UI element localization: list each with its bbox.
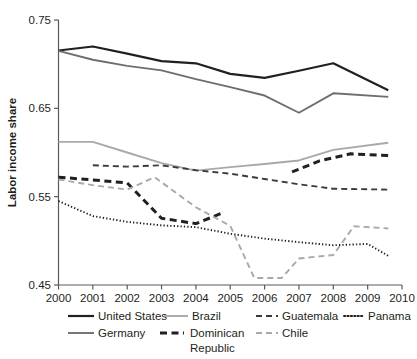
series-line bbox=[59, 51, 389, 113]
line-chart: 0.750.650.550.45Labor income share200020… bbox=[0, 0, 417, 359]
series-line bbox=[292, 154, 388, 172]
series-line bbox=[59, 47, 389, 91]
x-axis: 2000200120022003200420052006200720082009… bbox=[46, 285, 415, 304]
x-tick-label: 2009 bbox=[355, 292, 381, 304]
series-chile bbox=[59, 177, 389, 278]
legend-item-dominican-republic[interactable]: DominicanRepublic bbox=[160, 327, 244, 354]
legend-label-line2: Republic bbox=[190, 342, 235, 354]
x-tick-label: 2002 bbox=[114, 292, 140, 304]
legend-label: Dominican bbox=[190, 327, 244, 339]
series-group bbox=[59, 47, 389, 278]
legend-label: Chile bbox=[282, 327, 308, 339]
x-tick-label: 2001 bbox=[80, 292, 106, 304]
x-tick-label: 2006 bbox=[252, 292, 278, 304]
legend-item-panama[interactable]: Panama bbox=[344, 310, 411, 322]
x-tick-label: 2004 bbox=[183, 292, 209, 304]
x-tick-label: 2003 bbox=[149, 292, 175, 304]
series-united-states bbox=[59, 47, 389, 91]
legend-item-brazil[interactable]: Brazil bbox=[164, 310, 221, 322]
y-tick-label: 0.45 bbox=[29, 279, 51, 291]
x-tick-label: 2000 bbox=[46, 292, 72, 304]
chart-figure: 0.750.650.550.45Labor income share200020… bbox=[0, 0, 417, 359]
legend-label: Germany bbox=[98, 327, 146, 339]
legend-label: Guatemala bbox=[282, 310, 339, 322]
chart-legend: United StatesBrazilGuatemalaPanamaGerman… bbox=[68, 310, 411, 354]
series-germany bbox=[59, 51, 389, 113]
legend-item-chile[interactable]: Chile bbox=[256, 327, 308, 339]
legend-label: United States bbox=[98, 310, 167, 322]
x-tick-label: 2005 bbox=[217, 292, 243, 304]
y-axis-title: Labor income share bbox=[6, 98, 18, 207]
y-tick-label: 0.55 bbox=[29, 191, 51, 203]
y-tick-label: 0.75 bbox=[29, 14, 51, 26]
x-tick-label: 2008 bbox=[321, 292, 347, 304]
series-line bbox=[59, 177, 389, 278]
legend-item-germany[interactable]: Germany bbox=[68, 327, 146, 339]
legend-label: Panama bbox=[368, 310, 411, 322]
x-tick-label: 2010 bbox=[389, 292, 415, 304]
legend-label: Brazil bbox=[192, 310, 221, 322]
legend-item-united-states[interactable]: United States bbox=[68, 310, 167, 322]
series-dominican-republic bbox=[59, 154, 389, 224]
y-axis: 0.750.650.550.45 bbox=[29, 14, 59, 291]
legend-item-guatemala[interactable]: Guatemala bbox=[256, 310, 339, 322]
x-tick-label: 2007 bbox=[286, 292, 312, 304]
y-tick-label: 0.65 bbox=[29, 102, 51, 114]
